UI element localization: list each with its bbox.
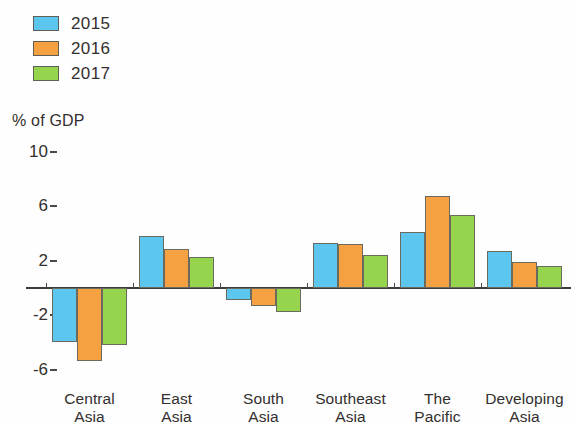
bar <box>52 288 77 342</box>
x-axis-label: DevelopingAsia <box>465 390 573 422</box>
bar <box>363 255 388 288</box>
bar <box>251 288 276 306</box>
y-tick-label: 10 <box>29 142 48 162</box>
x-tick-mark <box>481 283 482 288</box>
x-tick-mark <box>46 283 47 288</box>
x-axis-label-line: Asia <box>465 408 573 422</box>
bar <box>313 243 338 288</box>
bar <box>139 236 164 288</box>
bar <box>425 196 450 288</box>
y-tick-mark <box>50 260 57 262</box>
bar-chart-figure: 2015 2016 2017 % of GDP 1062-2-6 Central… <box>0 0 573 422</box>
x-axis-label-line: Developing <box>465 390 573 408</box>
y-tick-label: -2 <box>33 305 48 325</box>
bar <box>102 288 127 345</box>
bar <box>189 257 214 288</box>
bar <box>400 232 425 288</box>
bar <box>512 262 537 288</box>
bar <box>226 288 251 300</box>
bar <box>276 288 301 312</box>
x-tick-mark <box>133 283 134 288</box>
bar <box>450 215 475 288</box>
bar <box>164 249 189 288</box>
bar <box>338 244 363 288</box>
y-tick-mark <box>50 151 57 153</box>
y-tick-label: 6 <box>39 196 48 216</box>
x-tick-mark <box>394 283 395 288</box>
y-tick-mark <box>50 369 57 371</box>
x-tick-mark <box>307 283 308 288</box>
y-tick-mark <box>50 205 57 207</box>
plot-area: 1062-2-6 CentralAsiaEastAsiaSouthAsiaSou… <box>0 0 573 422</box>
bar <box>537 266 562 288</box>
y-tick-label: 2 <box>39 251 48 271</box>
y-tick-label: -6 <box>33 360 48 380</box>
bar <box>77 288 102 361</box>
bar <box>487 251 512 288</box>
x-tick-mark <box>220 283 221 288</box>
